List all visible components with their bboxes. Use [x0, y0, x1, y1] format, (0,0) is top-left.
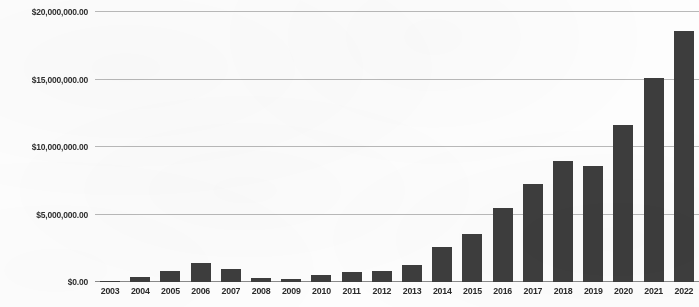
x-axis-labels: 2003200420052006200720082009201020112012…	[95, 286, 699, 304]
bar[interactable]	[191, 263, 211, 282]
bar-slot	[518, 12, 548, 282]
bar[interactable]	[281, 279, 301, 282]
bar-slot	[125, 12, 155, 282]
bar-chart: $0.00$5,000,000.00$10,000,000.00$15,000,…	[0, 0, 699, 307]
x-axis-tick-label: 2020	[608, 286, 638, 296]
y-axis-tick-label: $0.00	[0, 277, 88, 287]
bar[interactable]	[251, 278, 271, 282]
bar-slot	[306, 12, 336, 282]
x-axis-tick-label: 2018	[548, 286, 578, 296]
bar[interactable]	[583, 166, 603, 282]
bar[interactable]	[372, 271, 392, 282]
bar-slot	[457, 12, 487, 282]
x-axis-tick-label: 2007	[216, 286, 246, 296]
bar-slot	[669, 12, 699, 282]
x-axis-tick-label: 2022	[669, 286, 699, 296]
bar-slot	[337, 12, 367, 282]
x-axis-tick-label: 2005	[155, 286, 185, 296]
y-axis-tick-label: $20,000,000.00	[0, 7, 88, 17]
bar-slot	[367, 12, 397, 282]
x-axis-tick-label: 2014	[427, 286, 457, 296]
bar[interactable]	[342, 272, 362, 282]
x-axis-tick-label: 2006	[186, 286, 216, 296]
bar-slot	[246, 12, 276, 282]
bar[interactable]	[553, 161, 573, 282]
bar-slot	[95, 12, 125, 282]
bar-series	[95, 12, 699, 282]
x-axis-tick-label: 2008	[246, 286, 276, 296]
x-axis-tick-label: 2021	[639, 286, 669, 296]
bar-slot	[548, 12, 578, 282]
y-axis-tick-label: $15,000,000.00	[0, 75, 88, 85]
x-axis-tick-label: 2010	[306, 286, 336, 296]
x-axis-tick-label: 2012	[367, 286, 397, 296]
y-axis-tick-label: $10,000,000.00	[0, 142, 88, 152]
bar[interactable]	[402, 265, 422, 282]
x-axis-tick-label: 2015	[457, 286, 487, 296]
bar[interactable]	[100, 281, 120, 282]
bar-slot	[155, 12, 185, 282]
bar[interactable]	[613, 125, 633, 282]
bar[interactable]	[644, 78, 664, 282]
bar[interactable]	[432, 247, 452, 282]
x-axis-tick-label: 2003	[95, 286, 125, 296]
x-axis-tick-label: 2016	[488, 286, 518, 296]
bar-slot	[608, 12, 638, 282]
bar-slot	[276, 12, 306, 282]
bar-slot	[216, 12, 246, 282]
bar[interactable]	[221, 269, 241, 282]
bar-slot	[639, 12, 669, 282]
bar[interactable]	[523, 184, 543, 282]
bar[interactable]	[130, 277, 150, 282]
x-axis-tick-label: 2004	[125, 286, 155, 296]
bar-slot	[397, 12, 427, 282]
bar[interactable]	[311, 275, 331, 282]
bar-slot	[488, 12, 518, 282]
bar[interactable]	[462, 234, 482, 282]
bar-slot	[578, 12, 608, 282]
x-axis-tick-label: 2013	[397, 286, 427, 296]
x-axis-tick-label: 2019	[578, 286, 608, 296]
bar[interactable]	[674, 31, 694, 282]
bar[interactable]	[160, 271, 180, 282]
bar-slot	[186, 12, 216, 282]
x-axis-tick-label: 2009	[276, 286, 306, 296]
bar[interactable]	[493, 208, 513, 282]
x-axis-tick-label: 2011	[337, 286, 367, 296]
bar-slot	[427, 12, 457, 282]
y-axis-tick-label: $5,000,000.00	[0, 210, 88, 220]
x-axis-tick-label: 2017	[518, 286, 548, 296]
